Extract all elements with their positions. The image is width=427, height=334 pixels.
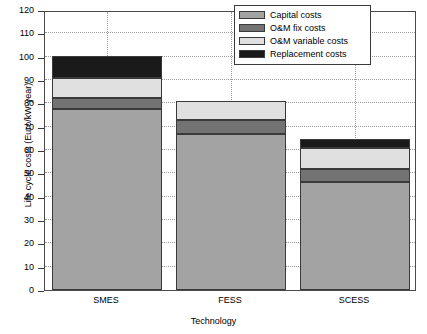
y-tick-mark bbox=[38, 34, 44, 35]
legend-item[interactable]: O&M variable costs bbox=[239, 35, 366, 47]
y-tick-label: 80 bbox=[0, 98, 34, 108]
y-tick-label: 110 bbox=[0, 28, 34, 38]
y-tick-mark bbox=[38, 151, 44, 152]
y-tick-label: 10 bbox=[0, 262, 34, 272]
x-tick-label: SCESS bbox=[314, 295, 394, 305]
chart-figure: Life cycle costs (Euro/kW-year) 01020304… bbox=[0, 0, 427, 334]
y-tick-mark bbox=[38, 244, 44, 245]
y-tick-label: 60 bbox=[0, 145, 34, 155]
y-tick-mark bbox=[38, 291, 44, 292]
y-tick-mark bbox=[38, 174, 44, 175]
y-tick-mark bbox=[38, 58, 44, 59]
y-tick-label: 90 bbox=[0, 75, 34, 85]
y-tick-mark bbox=[38, 81, 44, 82]
y-tick-label: 0 bbox=[0, 285, 34, 295]
y-tick-label: 100 bbox=[0, 52, 34, 62]
y-tick-label: 120 bbox=[0, 5, 34, 15]
y-tick-mark bbox=[38, 128, 44, 129]
legend-swatch-icon bbox=[239, 37, 265, 45]
bar-segment[interactable] bbox=[176, 120, 286, 134]
x-tick-label: SMES bbox=[66, 295, 146, 305]
y-tick-label: 50 bbox=[0, 168, 34, 178]
y-tick-mark bbox=[38, 198, 44, 199]
legend-item-label: Replacement costs bbox=[270, 49, 347, 59]
legend-item-label: O&M variable costs bbox=[270, 36, 348, 46]
legend-swatch-icon bbox=[239, 24, 265, 32]
bar-segment[interactable] bbox=[300, 139, 410, 148]
bar-segment[interactable] bbox=[300, 169, 410, 182]
bar-segment[interactable] bbox=[52, 98, 162, 110]
bar-segment[interactable] bbox=[176, 134, 286, 290]
y-tick-mark bbox=[38, 268, 44, 269]
bar-segment[interactable] bbox=[52, 78, 162, 98]
y-tick-label: 70 bbox=[0, 122, 34, 132]
legend-item-label: O&M fix costs bbox=[270, 23, 326, 33]
bar-smes[interactable] bbox=[52, 11, 162, 290]
y-tick-mark bbox=[38, 11, 44, 12]
y-tick-mark bbox=[38, 104, 44, 105]
legend-item[interactable]: Replacement costs bbox=[239, 48, 366, 60]
x-tick-label: FESS bbox=[190, 295, 270, 305]
legend-swatch-icon bbox=[239, 11, 265, 19]
legend-item[interactable]: Capital costs bbox=[239, 9, 366, 21]
y-tick-mark bbox=[38, 221, 44, 222]
bar-segment[interactable] bbox=[52, 56, 162, 78]
bar-segment[interactable] bbox=[52, 109, 162, 290]
legend-item-label: Capital costs bbox=[270, 10, 322, 20]
bar-segment[interactable] bbox=[300, 182, 410, 291]
x-axis-label: Technology bbox=[0, 316, 427, 326]
bar-segment[interactable] bbox=[300, 148, 410, 169]
chart-legend: Capital costsO&M fix costsO&M variable c… bbox=[234, 5, 371, 65]
legend-swatch-icon bbox=[239, 50, 265, 58]
y-tick-label: 20 bbox=[0, 238, 34, 248]
bar-segment[interactable] bbox=[176, 101, 286, 120]
legend-item[interactable]: O&M fix costs bbox=[239, 22, 366, 34]
y-tick-label: 30 bbox=[0, 215, 34, 225]
y-tick-label: 40 bbox=[0, 192, 34, 202]
